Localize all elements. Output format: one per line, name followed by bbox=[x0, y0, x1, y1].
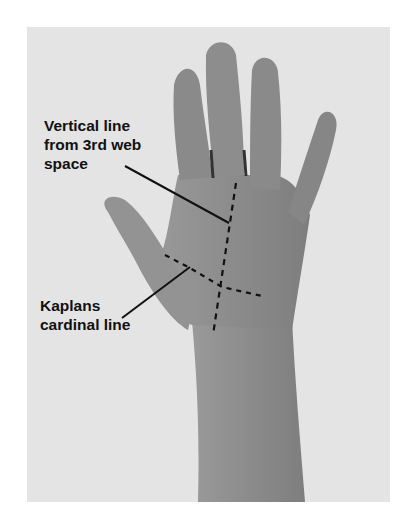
kaplans-cardinal-line-label: Kaplans cardinal line bbox=[40, 296, 130, 334]
ring-finger bbox=[250, 58, 281, 190]
index-finger bbox=[173, 69, 212, 180]
vertical-line-label: Vertical line from 3rd web space bbox=[44, 116, 141, 173]
web-space-shadow bbox=[211, 150, 213, 178]
web-space-shadow bbox=[244, 150, 246, 176]
forearm bbox=[190, 300, 305, 502]
hand-photo bbox=[27, 27, 390, 502]
little-finger bbox=[288, 112, 337, 225]
hand-illustration bbox=[27, 27, 390, 502]
